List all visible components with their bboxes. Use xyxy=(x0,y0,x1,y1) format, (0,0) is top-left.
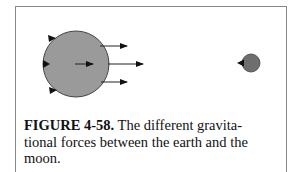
caption-text-2: tional forces between the earth and the xyxy=(24,134,248,150)
caption-text-1: The different gravita- xyxy=(114,117,242,133)
caption-text-3: moon. xyxy=(24,150,61,166)
figure-label: FIGURE 4-58. xyxy=(24,117,114,133)
figure-caption: FIGURE 4-58. The different gravita- tion… xyxy=(24,117,284,167)
moon xyxy=(237,54,260,72)
gravity-diagram xyxy=(0,0,299,115)
